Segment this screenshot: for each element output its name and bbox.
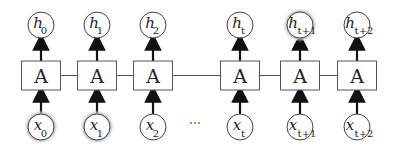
timestep-t+1: Aht+1xt+1 — [281, 8, 320, 140]
hidden-state-subscript: t+2 — [355, 25, 374, 36]
input-label: x — [289, 116, 298, 134]
timestep-t+2: Aht+2xt+2 — [338, 12, 377, 140]
input-subscript: t+2 — [355, 128, 374, 139]
cell-label: A — [89, 65, 104, 87]
cell-label: A — [145, 65, 160, 87]
hidden-state-subscript: 2 — [153, 25, 159, 36]
rnn-unrolled-diagram: Ah0x0Ah1x1Ah2x2AhtxtAht+1xt+1Aht+2xt+2 ⋯ — [0, 0, 398, 152]
input-subscript: 1 — [97, 128, 103, 139]
cell-label: A — [232, 65, 247, 87]
timestep-2: Ah2x2 — [134, 12, 173, 140]
hidden-state-subscript: t+1 — [298, 25, 317, 36]
timestep-t: Ahtxt — [221, 12, 260, 140]
cell-label: A — [292, 65, 307, 87]
hidden-state-subscript: 1 — [97, 25, 103, 36]
cell-label: A — [349, 65, 364, 87]
input-subscript: t — [241, 128, 245, 139]
ellipsis: ⋯ — [189, 116, 201, 130]
input-label: x — [346, 116, 355, 134]
cell-label: A — [33, 65, 48, 87]
hidden-state-subscript: t — [241, 25, 245, 36]
timestep-0: Ah0x0 — [22, 12, 61, 144]
hidden-state-label: h — [345, 14, 355, 32]
hidden-state-subscript: 0 — [41, 25, 47, 36]
input-subscript: 0 — [41, 128, 47, 139]
input-subscript: 2 — [153, 128, 159, 139]
timestep-1: Ah1x1 — [78, 12, 117, 144]
hidden-state-label: h — [288, 14, 298, 32]
input-subscript: t+1 — [298, 128, 317, 139]
